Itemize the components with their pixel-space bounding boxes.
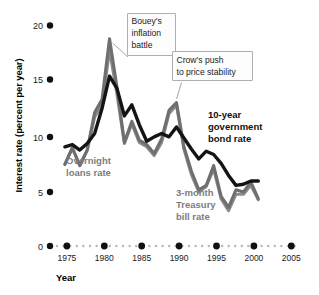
y-tick-label-15: 15 [33, 75, 43, 85]
annotation-crow: Crow's push to price stability [173, 52, 253, 100]
x-tick-dot-1980 [101, 243, 108, 250]
x-axis-title: Year [56, 272, 76, 283]
x-tick-label-2005: 2005 [282, 253, 301, 263]
y-tick-label-0: 0 [38, 242, 43, 252]
y-tick-dot-20 [47, 22, 53, 28]
annotation-crow-leader [177, 83, 182, 100]
annotation-crow-line1: Crow's push [177, 55, 224, 65]
annotation-crow-line2: to price stability [177, 67, 237, 77]
x-tick-dot-1985 [138, 243, 145, 250]
series-label-tbill-line3: bill rate [176, 211, 210, 222]
y-tick-dot-10 [47, 134, 53, 140]
x-tick-dot-1990 [176, 243, 183, 250]
y-tick-dot-15 [47, 76, 53, 82]
series-label-tbill-line1: 3-month [176, 187, 214, 198]
annotation-bouey-line2: inflation [132, 28, 162, 38]
x-tick-label-1985: 1985 [132, 253, 151, 263]
y-tick-label-10: 10 [33, 133, 43, 143]
series-label-bond: 10-year government bond rate [208, 109, 263, 144]
x-tick-dot-1995 [213, 243, 220, 250]
x-tick-label-1975: 1975 [57, 253, 76, 263]
x-axis-origin-dot [47, 243, 53, 249]
x-tick-dot-2000 [251, 243, 258, 250]
x-tick-label-1990: 1990 [170, 253, 189, 263]
series-label-overnight-line1: Overnight [66, 155, 112, 166]
y-tick-dot-5 [47, 189, 53, 195]
series-label-overnight: Overnight loans rate [66, 155, 112, 178]
x-tick-dot-2005 [288, 243, 295, 250]
y-tick-label-20: 20 [33, 21, 43, 31]
series-label-bond-line2: government [208, 121, 263, 132]
x-axis-tick-labels: 1975 1980 1985 1990 1995 2000 2005 [57, 253, 301, 263]
series-label-bond-line3: bond rate [208, 133, 251, 144]
annotation-bouey-line1: Bouey's [132, 16, 162, 26]
series-label-overnight-line2: loans rate [66, 167, 111, 178]
y-axis-ticks: 20 15 10 5 0 [33, 21, 53, 252]
series-label-bond-line1: 10-year [208, 109, 242, 120]
y-tick-label-5: 5 [38, 188, 43, 198]
annotation-bouey-leader [113, 43, 129, 57]
x-tick-dot-1975 [64, 243, 71, 250]
x-tick-label-2000: 2000 [244, 253, 263, 263]
series-label-tbill-line2: Treasury [176, 199, 216, 210]
x-tick-label-1980: 1980 [95, 253, 114, 263]
annotation-bouey: Bouey's inflation battle [113, 14, 176, 58]
chart-canvas: 20 15 10 5 0 [0, 0, 319, 295]
annotation-bouey-line3: battle [132, 40, 153, 50]
y-axis-title: Interest rate (percent per year) [13, 36, 24, 216]
x-tick-label-1995: 1995 [207, 253, 226, 263]
series-label-tbill: 3-month Treasury bill rate [176, 187, 216, 222]
x-axis-baseline [47, 243, 296, 250]
interest-rate-chart: Interest rate (percent per year) 20 15 1… [0, 0, 319, 295]
